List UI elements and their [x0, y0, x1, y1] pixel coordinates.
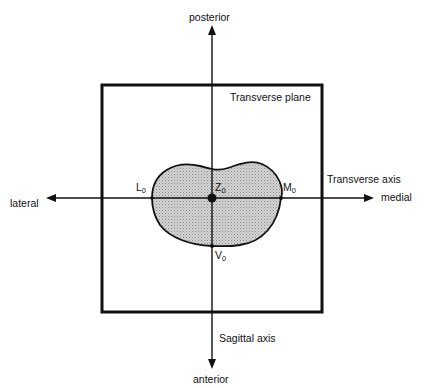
point-m0-subscript: 0 [292, 186, 296, 195]
label-sagittal-axis: Sagittal axis [219, 333, 276, 344]
diagram-canvas [0, 0, 425, 388]
point-z0-marker [208, 194, 217, 203]
arrow-down-icon [208, 359, 216, 369]
label-point-z0: Z0 [215, 182, 226, 195]
point-z0-subscript: 0 [221, 186, 225, 195]
label-point-l0: L0 [136, 182, 146, 195]
point-v0-letter: V [215, 249, 222, 261]
label-point-v0: V0 [215, 250, 226, 263]
label-lateral: lateral [10, 198, 39, 209]
arrow-left-icon [46, 194, 56, 202]
arrow-right-icon [364, 194, 374, 202]
point-v0-subscript: 0 [222, 254, 226, 263]
arrow-up-icon [208, 25, 216, 35]
label-point-m0: M0 [283, 182, 296, 195]
point-m0-marker [279, 196, 283, 200]
label-anterior: anterior [193, 374, 229, 385]
point-v0-marker [210, 244, 214, 248]
point-l0-subscript: 0 [142, 186, 146, 195]
point-l0-marker [150, 196, 154, 200]
label-transverse-axis: Transverse axis [327, 174, 401, 185]
label-transverse-plane: Transverse plane [230, 92, 311, 103]
label-posterior: posterior [189, 12, 230, 23]
cross-section-shape [152, 162, 282, 246]
point-m0-letter: M [283, 181, 292, 193]
label-medial: medial [381, 192, 412, 203]
